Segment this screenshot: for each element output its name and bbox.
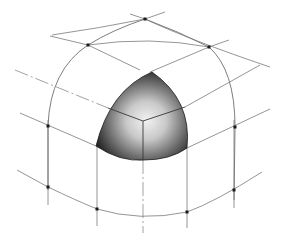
dot-lower-right <box>233 189 236 192</box>
dot-lower-left <box>47 186 50 189</box>
dot-upper-right <box>208 46 211 49</box>
dot-top <box>144 18 147 21</box>
dot-left <box>47 125 50 128</box>
dot-lower-mid-right <box>186 211 189 214</box>
diagram-canvas <box>0 0 286 243</box>
sphere-octant <box>96 72 188 160</box>
grid-lines-top <box>50 12 270 72</box>
dot-right <box>234 126 237 129</box>
dot-lower-mid-left <box>96 208 99 211</box>
rounded-corner-diagram <box>0 0 286 243</box>
grid-lines-bottom <box>17 170 262 216</box>
dot-upper-left <box>87 44 90 47</box>
